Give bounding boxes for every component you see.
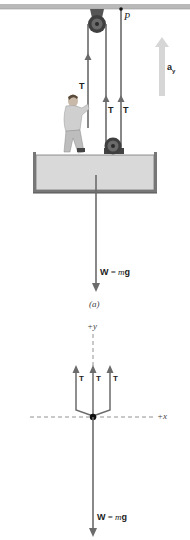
weight-label-a: W = mg: [100, 268, 130, 277]
tension-label-2: T: [108, 106, 114, 115]
tension-arrows-a: [85, 53, 125, 102]
ceiling: [0, 4, 190, 9]
pulley-free-body-diagram: P ay T T T W = mg (a) +y +x T T T W = mg: [0, 0, 190, 540]
fbd-tension-label-3: T: [113, 375, 118, 383]
fbd-tension-label-2: T: [96, 375, 101, 383]
y-axis-label: +y: [87, 322, 97, 331]
man-figure: [64, 95, 89, 154]
point-p-dot: [119, 7, 123, 11]
figure-caption: (a): [89, 300, 100, 309]
fbd-tension-label-1: T: [79, 375, 84, 383]
tension-label-3: T: [123, 106, 129, 115]
point-p-label: P: [124, 12, 130, 22]
fbd-tension-arrows: [73, 365, 114, 416]
platform: [33, 152, 157, 193]
diagram-svg: [0, 0, 190, 540]
x-axis-label: +x: [157, 412, 167, 421]
tension-label-1: T: [79, 82, 85, 91]
acceleration-label: ay: [167, 63, 175, 74]
weight-arrow-fbd: [89, 417, 97, 537]
top-pulley-icon: [88, 9, 106, 33]
weight-label-fbd: W = mg: [97, 513, 127, 522]
